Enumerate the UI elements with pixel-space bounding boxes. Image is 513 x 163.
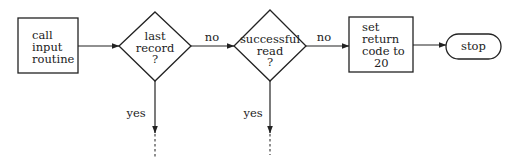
node-label: 20	[374, 56, 389, 70]
node-label: ?	[267, 55, 273, 69]
node-label: routine	[32, 52, 75, 66]
edge-label-no: no	[317, 30, 331, 44]
call-input-routine-box: call input routine	[18, 18, 78, 73]
stop-terminal: stop	[446, 34, 501, 59]
edge-label-yes: yes	[242, 106, 262, 120]
edge-label-yes: yes	[125, 106, 145, 120]
edge-label-no: no	[205, 30, 219, 44]
last-record-decision: last record ?	[119, 12, 191, 81]
set-return-code-box: set return code to 20	[349, 17, 413, 72]
flowchart: call input routine last record ? no yes …	[0, 0, 513, 163]
node-label: stop	[461, 39, 486, 53]
successful-read-decision: successful read ?	[234, 10, 306, 81]
node-label: ?	[152, 52, 158, 66]
